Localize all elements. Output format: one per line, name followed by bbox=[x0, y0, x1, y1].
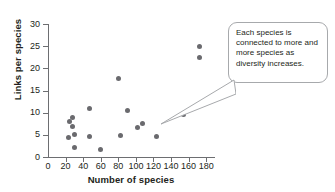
y-axis-tick bbox=[43, 68, 48, 69]
y-axis-tick-label: 15 bbox=[14, 86, 40, 95]
x-axis-title: Number of species bbox=[48, 174, 214, 185]
y-axis-tick bbox=[43, 135, 48, 136]
scatter-point bbox=[118, 133, 123, 138]
scatter-point bbox=[70, 115, 75, 120]
y-axis-tick bbox=[43, 113, 48, 114]
scatter-point bbox=[66, 135, 71, 140]
scatter-point bbox=[135, 125, 140, 130]
scatter-point bbox=[197, 55, 202, 60]
y-axis-tick-label: 10 bbox=[14, 108, 40, 117]
y-axis-tick bbox=[43, 46, 48, 47]
scatter-point bbox=[197, 44, 202, 49]
y-axis-tick bbox=[43, 24, 48, 25]
x-axis-tick-label: 180 bbox=[194, 162, 218, 171]
scatter-plot-figure: Links per species Number of species 0510… bbox=[0, 0, 335, 192]
y-axis-line bbox=[48, 24, 49, 158]
y-axis-tick bbox=[43, 91, 48, 92]
scatter-point bbox=[98, 147, 103, 152]
scatter-point bbox=[181, 112, 186, 117]
scatter-point bbox=[87, 134, 92, 139]
y-axis-tick-label: 20 bbox=[14, 64, 40, 73]
y-axis-tick-label: 5 bbox=[14, 130, 40, 139]
scatter-point bbox=[140, 121, 145, 126]
x-axis-line bbox=[48, 157, 215, 158]
scatter-point bbox=[116, 76, 121, 81]
scatter-point bbox=[154, 134, 159, 139]
scatter-point bbox=[125, 108, 130, 113]
annotation-callout: Each species is connected to more and mo… bbox=[228, 22, 328, 83]
scatter-point bbox=[72, 145, 77, 150]
y-axis-tick-label: 0 bbox=[14, 153, 40, 162]
scatter-point bbox=[70, 124, 75, 129]
scatter-point bbox=[72, 132, 77, 137]
scatter-point bbox=[87, 106, 92, 111]
callout-pointer-icon bbox=[160, 78, 236, 128]
y-axis-tick-label: 30 bbox=[14, 20, 40, 29]
y-axis-tick bbox=[43, 157, 48, 158]
y-axis-tick-label: 25 bbox=[14, 42, 40, 51]
